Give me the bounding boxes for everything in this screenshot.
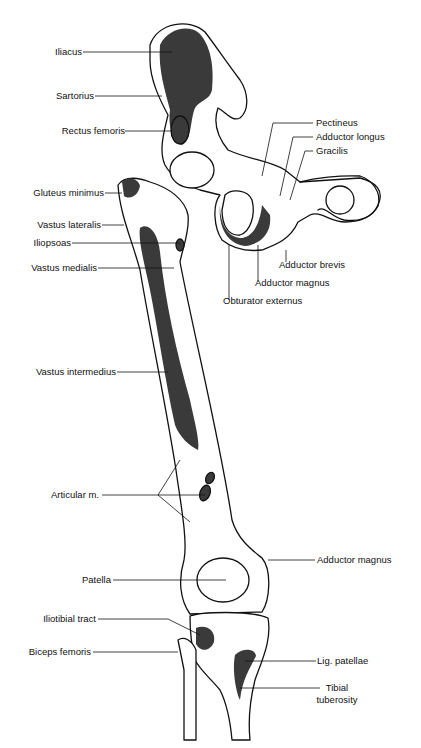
label-vastus-medialis: Vastus medialis — [31, 262, 97, 273]
label-adductor-longus: Adductor longus — [316, 131, 385, 142]
label-tuberosity: tuberosity — [312, 694, 362, 705]
label-articular-m: Articular m. — [51, 489, 99, 500]
label-iliacus: Iliacus — [55, 46, 82, 57]
label-vastus-intermedius: Vastus intermedius — [36, 366, 116, 377]
obturator-foramen — [222, 191, 253, 235]
label-lig-patellae: Lig. patellae — [317, 655, 368, 666]
label-rectus-femoris: Rectus femoris — [62, 125, 125, 136]
fibula-outline — [178, 638, 196, 740]
femoral-head — [170, 152, 214, 188]
contralateral-foramen — [326, 186, 354, 214]
label-adductor-magnus-lower: Adductor magnus — [317, 554, 391, 565]
label-patella: Patella — [82, 574, 111, 585]
label-tibial: Tibial — [312, 682, 362, 693]
label-gluteus-minimus: Gluteus minimus — [33, 187, 104, 198]
label-biceps-femoris: Biceps femoris — [29, 646, 91, 657]
label-obturator-externus: Obturator externus — [223, 295, 302, 306]
label-adductor-magnus-upper: Adductor magnus — [255, 277, 329, 288]
label-gracilis: Gracilis — [316, 145, 348, 156]
label-iliotibial-tract: Iliotibial tract — [43, 613, 96, 624]
label-adductor-brevis: Adductor brevis — [279, 259, 345, 270]
label-sartorius: Sartorius — [56, 90, 94, 101]
anatomy-diagram: Iliacus Sartorius Rectus femoris Gluteus… — [0, 0, 421, 748]
rectus-femoris-attachment — [171, 116, 189, 144]
label-pectineus: Pectineus — [316, 117, 358, 128]
label-vastus-lateralis: Vastus lateralis — [37, 219, 101, 230]
iliopsoas-attachment — [176, 239, 184, 251]
label-iliopsoas: Iliopsoas — [34, 237, 72, 248]
